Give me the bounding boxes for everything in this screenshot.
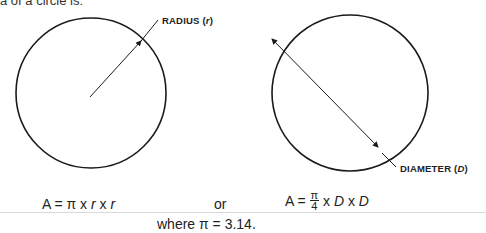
diameter-leader-line: [382, 153, 396, 167]
left-circle: [16, 18, 166, 168]
or-connector: or: [214, 196, 226, 212]
diameter-label: DIAMETER (D): [400, 163, 468, 174]
radius-area-formula: A = π x r x r: [42, 196, 115, 212]
radius-label-var: r: [206, 15, 210, 26]
diameter-label-text: DIAMETER: [400, 163, 451, 174]
formula-var: D: [359, 193, 369, 209]
formula-var: D: [334, 193, 344, 209]
radius-leader-line: [141, 20, 158, 41]
right-circle: [272, 15, 428, 171]
formula-text: A =: [285, 193, 310, 209]
formula-text: x: [344, 193, 359, 209]
diameter-label-var: D: [457, 163, 464, 174]
fraction-denominator: 4: [310, 201, 320, 211]
pi-over-4-fraction: π4: [310, 190, 320, 211]
formula-var: r: [110, 196, 115, 212]
diameter-line: [272, 39, 378, 147]
formula-text: A = π x: [42, 196, 91, 212]
diameter-area-formula: A = π4 x D x D: [285, 192, 369, 213]
pi-value-note: where π = 3.14.: [157, 216, 256, 232]
formula-text: x: [96, 196, 111, 212]
radius-label: RADIUS (r): [162, 15, 213, 26]
formula-text: x: [319, 193, 334, 209]
radius-label-text: RADIUS: [162, 15, 200, 26]
radius-line: [90, 41, 141, 97]
horizontal-divider: [0, 212, 486, 213]
